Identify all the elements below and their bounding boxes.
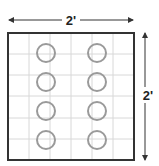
hole-circle <box>88 73 106 91</box>
width-label: 2' <box>66 13 76 28</box>
grid-lines <box>8 33 134 160</box>
hole-circle <box>37 131 55 149</box>
hole-circle <box>37 73 55 91</box>
panel-diagram: 2' 2' <box>0 0 159 166</box>
hole-circle <box>88 44 106 62</box>
hole-circle <box>37 44 55 62</box>
hole-circle <box>37 102 55 120</box>
height-label: 2' <box>143 88 153 103</box>
hole-circle <box>88 131 106 149</box>
hole-circle <box>88 102 106 120</box>
